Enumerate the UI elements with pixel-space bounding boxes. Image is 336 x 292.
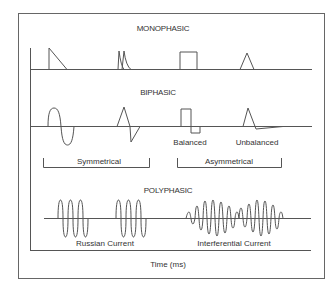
- monophasic-square-wave: [180, 52, 197, 70]
- symmetrical-label: Symmetrical: [77, 157, 121, 166]
- biphasic-triangle-wave: [117, 107, 140, 142]
- interferential-current-label: Interferential Current: [197, 239, 271, 248]
- balanced-label: Balanced: [173, 138, 206, 147]
- russian-current-burst-1: [58, 200, 88, 237]
- monophasic-twin-spike-wave: [118, 51, 131, 70]
- russian-current-label: Russian Current: [76, 239, 135, 248]
- biphasic-unbalanced-wave: [243, 108, 283, 129]
- monophasic-sawtooth-wave: [49, 48, 67, 70]
- waveform-diagram: MONOPHASIC BIPHASIC Balanced Unbalanced …: [0, 0, 336, 292]
- biphasic-balanced-square-wave: [181, 109, 200, 133]
- russian-current-burst-2: [116, 200, 146, 237]
- biphasic-title: BIPHASIC: [140, 88, 176, 97]
- polyphasic-title: POLYPHASIC: [144, 186, 193, 195]
- asymmetrical-label: Asymmetrical: [205, 157, 253, 166]
- unbalanced-label: Unbalanced: [236, 138, 279, 147]
- outer-frame: [19, 14, 325, 279]
- monophasic-title: MONOPHASIC: [137, 24, 190, 33]
- monophasic-triangle-wave: [240, 53, 254, 70]
- time-axis-label: Time (ms): [150, 260, 186, 269]
